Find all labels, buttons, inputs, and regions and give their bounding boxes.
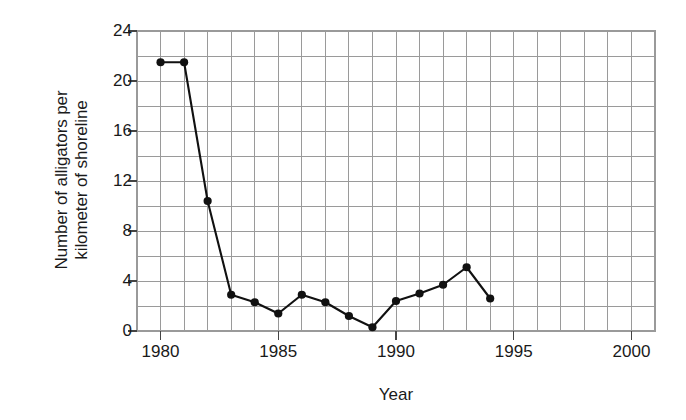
data-point-marker[interactable] bbox=[439, 281, 447, 289]
chart-figure: Number of alligators per kilometer of sh… bbox=[0, 0, 686, 420]
data-point-marker[interactable] bbox=[274, 309, 282, 317]
x-axis-title: Year bbox=[137, 385, 655, 405]
y-axis-tick-label: 16 bbox=[92, 121, 132, 141]
y-axis-tick-label: 20 bbox=[92, 71, 132, 91]
y-axis-tick-label: 4 bbox=[92, 271, 132, 291]
data-point-marker[interactable] bbox=[486, 294, 494, 302]
data-point-marker[interactable] bbox=[321, 298, 329, 306]
x-axis-tick-label: 1980 bbox=[126, 342, 196, 362]
y-axis-tick-label: 0 bbox=[92, 321, 132, 341]
y-axis-tick-label: 8 bbox=[92, 221, 132, 241]
data-point-marker[interactable] bbox=[156, 58, 164, 66]
data-point-marker[interactable] bbox=[180, 58, 188, 66]
data-point-marker[interactable] bbox=[345, 312, 353, 320]
data-point-marker[interactable] bbox=[227, 291, 235, 299]
x-axis-tick-label: 1995 bbox=[479, 342, 549, 362]
y-axis-tick-label: 12 bbox=[92, 171, 132, 191]
data-point-marker[interactable] bbox=[204, 197, 212, 205]
y-axis-tick-label: 24 bbox=[92, 21, 132, 41]
x-axis-tick-label: 1985 bbox=[243, 342, 313, 362]
data-point-marker[interactable] bbox=[463, 263, 471, 271]
data-point-marker[interactable] bbox=[298, 291, 306, 299]
x-axis-tick-label: 2000 bbox=[596, 342, 666, 362]
y-axis-title-line-1: Number of alligators per bbox=[51, 90, 71, 269]
data-point-marker[interactable] bbox=[368, 323, 376, 331]
y-axis-title-line-2: kilometer of shoreline bbox=[71, 90, 91, 269]
axis-ticks bbox=[128, 31, 631, 340]
data-point-marker[interactable] bbox=[415, 289, 423, 297]
x-axis-tick-label: 1990 bbox=[361, 342, 431, 362]
gridlines bbox=[137, 31, 655, 331]
data-point-marker[interactable] bbox=[392, 297, 400, 305]
data-point-marker[interactable] bbox=[251, 298, 259, 306]
